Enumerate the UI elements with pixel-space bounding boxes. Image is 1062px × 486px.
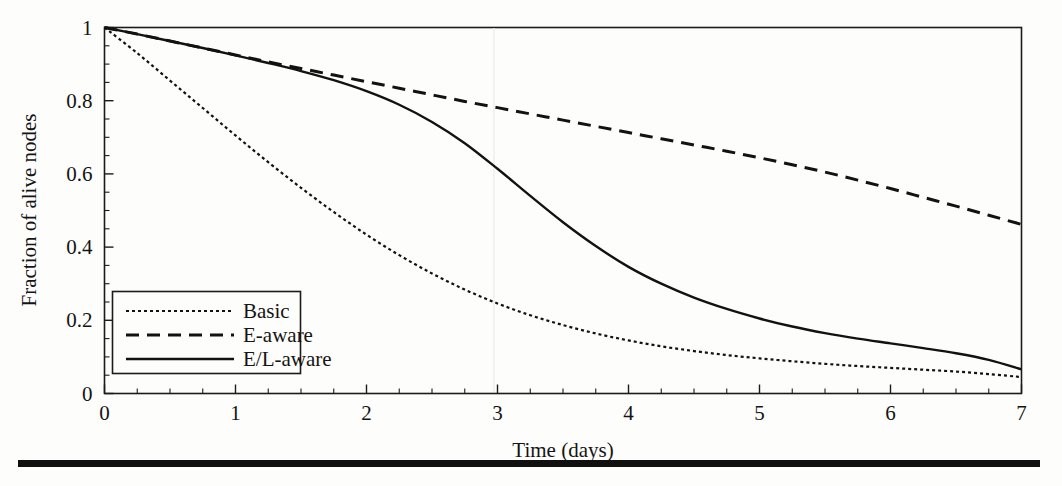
x-tick-label: 0 [99,401,110,425]
x-tick-label: 6 [885,401,896,425]
x-axis-ticks [105,385,1022,394]
x-tick-label: 4 [623,401,634,425]
legend-label: E/L-aware [243,347,332,371]
figure-container: 01234567 00.20.40.60.81 Time (days) Frac… [0,0,1062,486]
x-tick-label: 2 [361,401,372,425]
y-axis-tick-labels: 00.20.40.60.81 [66,16,93,406]
y-tick-label: 0.4 [66,235,93,259]
y-axis-title: Fraction of alive nodes [17,113,41,306]
x-tick-label: 3 [492,401,503,425]
x-tick-label: 1 [230,401,241,425]
x-tick-label: 7 [1016,401,1027,425]
legend-label: Basic [243,299,290,323]
y-tick-label: 0.8 [66,89,92,113]
x-axis-tick-labels: 01234567 [99,401,1027,425]
y-tick-label: 0.6 [66,162,92,186]
page-footer-rule [18,460,1040,467]
legend-label: E-aware [243,323,313,347]
chart-legend: BasicE-awareE/L-aware [113,292,332,374]
x-axis-title: Time (days) [512,438,613,462]
y-tick-label: 0 [82,382,93,406]
chart-canvas: 01234567 00.20.40.60.81 Time (days) Frac… [0,0,1062,486]
x-tick-label: 5 [754,401,765,425]
y-tick-label: 1 [82,16,93,40]
y-tick-label: 0.2 [66,308,92,332]
